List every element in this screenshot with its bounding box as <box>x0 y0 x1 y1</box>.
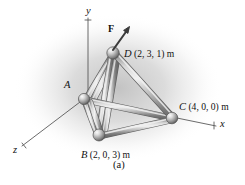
axis-label-z: z <box>13 145 17 156</box>
axis-label-x: x <box>220 119 225 130</box>
figure-caption: (a) <box>113 160 125 171</box>
node-label-D-name: D <box>124 48 132 59</box>
space-truss-figure: y x z F A B (2, 0, 3) m C (4, 0, 0) m D … <box>0 0 245 185</box>
force-label-F: F <box>108 24 114 34</box>
node-label-C: C (4, 0, 0) m <box>179 97 229 113</box>
node-label-D: D (2, 3, 1) m <box>124 44 174 60</box>
node-label-C-name: C <box>179 101 186 112</box>
node-label-D-coords: (2, 3, 1) m <box>134 48 174 59</box>
node-label-A: A <box>64 80 70 91</box>
axis-label-y: y <box>86 6 91 17</box>
node-label-C-coords: (4, 0, 0) m <box>188 101 228 112</box>
